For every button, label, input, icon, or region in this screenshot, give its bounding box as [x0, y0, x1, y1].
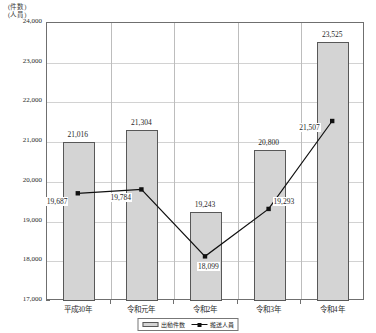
- y-axis-tick-label: 22,000: [2, 96, 42, 104]
- bar-value-label: 21,016: [46, 130, 110, 139]
- x-axis-tick-label: 令和元年: [110, 303, 174, 314]
- line-value-label: 18,099: [197, 262, 220, 271]
- line-series: [46, 22, 364, 300]
- y-axis-tick-label: 17,000: [2, 295, 42, 303]
- legend-bar-label: 出動件数: [161, 320, 185, 329]
- chart-legend: 出動件数 搬送人員: [138, 318, 239, 331]
- y-axis-tick-mark: [46, 300, 50, 301]
- line-value-label: 19,784: [109, 193, 132, 202]
- bar-value-label: 21,304: [110, 118, 174, 127]
- bar-line-combo-chart: (件数) (人員) 17,00018,00019,00020,00021,000…: [0, 0, 376, 333]
- bar-value-label: 19,243: [173, 200, 237, 209]
- legend-line-swatch-icon: [192, 322, 208, 327]
- line-marker: [203, 254, 207, 258]
- y-axis-tick-label: 18,000: [2, 255, 42, 263]
- line-value-label: 21,507: [298, 123, 321, 132]
- y-axis-tick-label: 23,000: [2, 57, 42, 65]
- unit-caption-line-1: (件数): [8, 3, 26, 11]
- x-axis-tick-label: 令和4年: [300, 303, 364, 314]
- bar-value-label: 20,800: [237, 138, 301, 147]
- y-axis-tick-label: 19,000: [2, 216, 42, 224]
- legend-bar-swatch-icon: [143, 322, 159, 327]
- y-axis-tick-label: 20,000: [2, 176, 42, 184]
- x-axis-tick-label: 令和2年: [173, 303, 237, 314]
- legend-item-bar: 出動件数: [143, 320, 185, 329]
- line-marker: [139, 187, 143, 191]
- line-value-label: 19,687: [46, 197, 69, 206]
- legend-line-label: 搬送人員: [210, 320, 234, 329]
- y-axis-tick-label: 21,000: [2, 136, 42, 144]
- x-axis-tick-label: 令和3年: [237, 303, 301, 314]
- bar-value-label: 23,525: [300, 30, 364, 39]
- x-axis-tick-label: 平成30年: [46, 303, 110, 314]
- line-marker: [76, 191, 80, 195]
- line-marker: [266, 207, 270, 211]
- y-axis-tick-label: 24,000: [2, 17, 42, 25]
- legend-item-line: 搬送人員: [192, 320, 234, 329]
- line-marker: [330, 119, 334, 123]
- line-value-label: 19,293: [273, 197, 296, 206]
